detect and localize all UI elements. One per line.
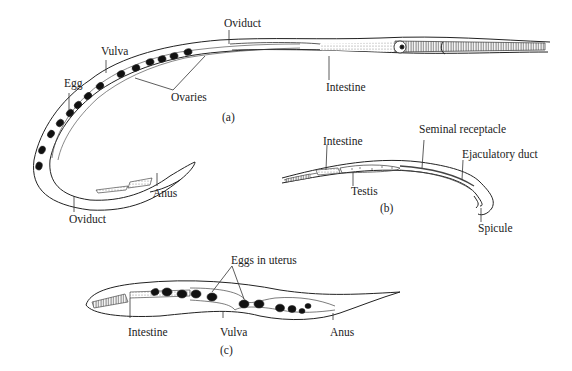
caption-b: (b) bbox=[380, 203, 393, 215]
label-b-intestine: Intestine bbox=[323, 136, 363, 148]
label-c-eggs-in-uterus: Eggs in uterus bbox=[231, 255, 297, 267]
label-c-anus: Anus bbox=[330, 327, 354, 339]
label-b-ejaculatory-duct: Ejaculatory duct bbox=[462, 149, 538, 161]
label-c-vulva: Vulva bbox=[220, 327, 247, 339]
nematode-diagram-artwork bbox=[0, 0, 572, 371]
label-c-intestine: Intestine bbox=[128, 327, 168, 339]
worm-b-testis-dots bbox=[351, 166, 392, 169]
label-a-vulva: Vulva bbox=[101, 46, 128, 58]
label-a-ovaries: Ovaries bbox=[171, 92, 207, 104]
caption-a: (a) bbox=[222, 112, 235, 124]
label-a-oviduct-top: Oviduct bbox=[224, 18, 261, 30]
label-a-oviduct-bottom: Oviduct bbox=[69, 214, 106, 226]
label-a-intestine: Intestine bbox=[326, 82, 366, 94]
label-a-egg: Egg bbox=[64, 78, 83, 90]
label-a-anus: Anus bbox=[153, 188, 177, 200]
caption-c: (c) bbox=[220, 345, 233, 357]
label-b-spicule: Spicule bbox=[478, 223, 513, 235]
label-b-testis: Testis bbox=[351, 186, 378, 198]
label-b-seminal-receptacle: Seminal receptacle bbox=[419, 124, 506, 136]
